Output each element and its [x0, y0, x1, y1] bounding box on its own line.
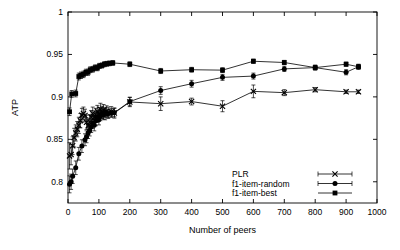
- legend-label-f1-item-random: f1-item-random: [232, 179, 290, 189]
- data-point: [110, 61, 115, 66]
- chart-legend: PLRf1-item-randomf1-item-best: [232, 169, 352, 198]
- data-point: [73, 91, 78, 96]
- data-point: [220, 75, 225, 80]
- x-tick-label: 1000: [368, 207, 387, 217]
- data-point: [112, 110, 117, 115]
- data-point: [127, 99, 132, 104]
- data-point: [344, 70, 349, 75]
- y-tick-label: 0.8: [51, 177, 63, 187]
- series-plr: [67, 85, 361, 169]
- x-tick-label: 0: [66, 207, 71, 217]
- y-tick-label: 0.95: [46, 49, 63, 59]
- series-line: [70, 90, 359, 156]
- data-point: [158, 69, 163, 74]
- data-point: [356, 64, 361, 69]
- data-point: [73, 165, 78, 170]
- series-line: [70, 67, 359, 185]
- y-axis-title: ATP: [10, 99, 20, 116]
- legend-marker-circle: [333, 181, 338, 186]
- legend-label-plr: PLR: [232, 169, 249, 179]
- data-point: [189, 81, 194, 86]
- y-tick-label: 1: [58, 7, 63, 17]
- data-point: [69, 179, 74, 184]
- y-tick-label: 0.85: [46, 134, 63, 144]
- y-axis-ticks: 0.80.850.90.951: [46, 7, 377, 187]
- x-tick-label: 100: [92, 207, 106, 217]
- x-tick-label: 300: [154, 207, 168, 217]
- x-axis-title: Number of peers: [189, 225, 257, 235]
- data-point: [92, 123, 97, 128]
- x-tick-label: 600: [246, 207, 260, 217]
- data-point: [127, 62, 132, 67]
- data-point: [251, 59, 256, 64]
- data-series-group: [67, 59, 361, 193]
- data-point: [70, 174, 75, 179]
- x-tick-label: 800: [308, 207, 322, 217]
- x-tick-label: 400: [185, 207, 199, 217]
- series-f1-item-random: [67, 64, 361, 193]
- data-point: [67, 109, 72, 114]
- data-point: [76, 151, 81, 156]
- data-point: [282, 66, 287, 71]
- legend-label-f1-item-best: f1-item-best: [232, 188, 278, 198]
- y-tick-label: 0.9: [51, 92, 63, 102]
- data-point: [158, 88, 163, 93]
- atp-vs-peers-line-chart: 01002003004005006007008009001000 0.80.85…: [0, 0, 400, 250]
- chart-figure: 01002003004005006007008009001000 0.80.85…: [0, 0, 400, 250]
- x-tick-label: 900: [339, 207, 353, 217]
- legend-marker-square: [333, 191, 338, 196]
- x-tick-label: 200: [123, 207, 137, 217]
- data-point: [79, 144, 84, 149]
- data-point: [189, 67, 194, 72]
- x-tick-label: 500: [215, 207, 229, 217]
- data-point: [251, 74, 256, 79]
- x-tick-label: 700: [277, 207, 291, 217]
- data-point: [313, 65, 318, 70]
- data-point: [344, 62, 349, 67]
- data-point: [282, 60, 287, 65]
- data-point: [220, 68, 225, 73]
